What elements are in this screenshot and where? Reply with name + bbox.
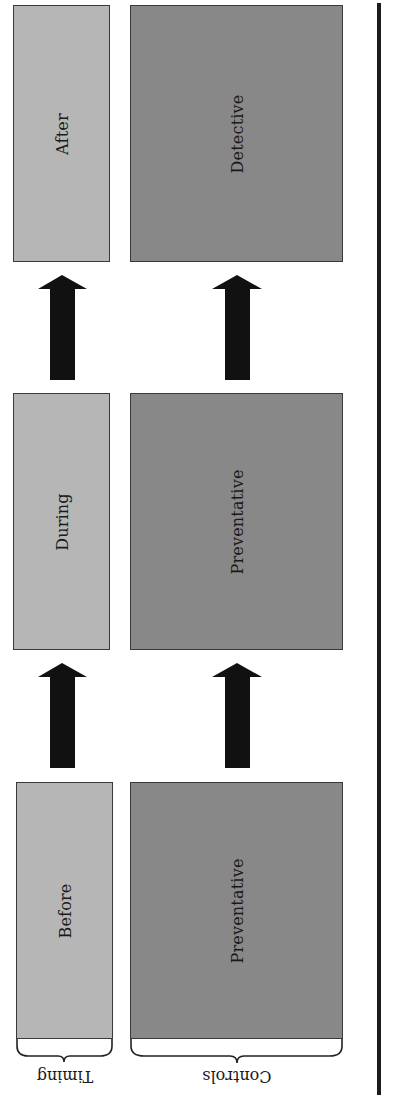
arrow-up-icon-before-to-during [38, 663, 87, 768]
timing-label-during: During [52, 493, 71, 551]
timing-box-during: During [13, 393, 110, 650]
timing-label-after: After [52, 113, 71, 155]
control-label-detective: Detective [227, 94, 246, 173]
group-label-controls: Controls [195, 1067, 279, 1086]
arrow-up-icon-preventative-to-preventative [212, 663, 262, 768]
control-box-preventative-before: Preventative [130, 782, 343, 1039]
group-label-timing: Timing [30, 1067, 100, 1086]
arrow-up-icon-preventative-to-detective [212, 275, 262, 380]
arrow-up-icon-during-to-after [38, 275, 87, 380]
brace-icon-timing [17, 1039, 112, 1062]
timing-label-before: Before [55, 883, 74, 938]
timing-box-before: Before [16, 782, 113, 1039]
control-label-preventative-before: Preventative [227, 858, 246, 963]
control-box-detective: Detective [130, 5, 343, 262]
divider-line [377, 3, 381, 1095]
timing-box-after: After [13, 5, 110, 262]
control-box-preventative-during: Preventative [130, 393, 343, 650]
control-label-preventative-during: Preventative [227, 469, 246, 574]
brace-icon-controls [131, 1039, 342, 1063]
